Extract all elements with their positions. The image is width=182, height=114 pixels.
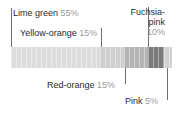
callout-yellow-orange-percent: 15% — [79, 28, 97, 38]
callout-fuchsia-pink-percent: 10% — [147, 27, 165, 37]
leader-line-lime-green — [11, 8, 12, 47]
stacked-bar — [11, 47, 172, 68]
callout-lime-green: Lime green 55% — [13, 8, 79, 18]
bar-segment-lime-green[interactable] — [11, 47, 100, 68]
callout-fuchsia-pink-name-line2: pink — [148, 17, 165, 27]
callout-fuchsia-pink-name-line1: Fuchsia- — [130, 7, 165, 17]
bar-segment-yellow-orange[interactable] — [100, 47, 124, 68]
leader-line-red-orange — [125, 68, 126, 84]
leader-line-pink — [167, 68, 168, 100]
callout-red-orange-percent: 15% — [97, 80, 115, 90]
leader-line-yellow-orange — [101, 28, 102, 47]
bar-segment-red-orange[interactable] — [124, 47, 148, 68]
callout-red-orange: Red-orange 15% — [47, 80, 115, 90]
callout-lime-green-percent: 55% — [61, 8, 79, 18]
callout-pink-name: Pink — [125, 96, 143, 106]
bar-segment-pink[interactable] — [164, 47, 172, 68]
bar-segment-fuchsia-pink[interactable] — [148, 47, 164, 68]
callout-pink: Pink 5% — [125, 96, 158, 106]
callout-red-orange-name: Red-orange — [47, 80, 95, 90]
callout-fuchsia-pink: Fuchsia- pink 10% — [119, 7, 165, 37]
callout-lime-green-name: Lime green — [13, 8, 58, 18]
callout-yellow-orange: Yellow-orange 15% — [20, 28, 97, 38]
callout-pink-percent: 5% — [145, 96, 158, 106]
callout-yellow-orange-name: Yellow-orange — [20, 28, 77, 38]
stacked-bar-chart: Lime green 55% Yellow-orange 15% Fuchsia… — [0, 0, 182, 114]
